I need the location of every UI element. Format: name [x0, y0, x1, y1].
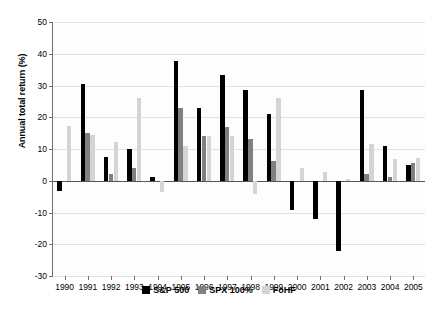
y-tick-mark	[49, 117, 53, 118]
legend-label: FoHF	[273, 285, 296, 295]
gridline	[53, 22, 425, 23]
bar	[267, 114, 271, 181]
gridline	[53, 276, 425, 277]
x-tick-mark	[134, 276, 135, 280]
bar	[178, 108, 182, 181]
legend-swatch-icon	[142, 286, 150, 294]
x-tick-mark	[204, 276, 205, 280]
bar	[225, 127, 229, 181]
bar	[271, 161, 275, 181]
legend-swatch-icon	[198, 286, 206, 294]
bar	[393, 159, 397, 181]
bar	[132, 168, 136, 181]
bar	[137, 98, 141, 181]
x-tick-mark	[344, 276, 345, 280]
bar	[300, 168, 304, 181]
bar	[230, 136, 234, 181]
legend-label: S&P 500	[153, 285, 189, 295]
y-tick-mark	[49, 149, 53, 150]
bar	[243, 90, 247, 181]
x-tick-mark	[251, 276, 252, 280]
bar	[336, 181, 340, 251]
bar	[369, 144, 373, 181]
bar	[207, 136, 211, 180]
bar	[346, 179, 350, 181]
bar	[109, 174, 113, 181]
y-tick-label: 40	[38, 49, 47, 59]
x-tick-mark	[88, 276, 89, 280]
y-tick-mark	[49, 213, 53, 214]
bar	[364, 174, 368, 181]
chart-legend: S&P 500SPX 100%FoHF	[0, 285, 438, 295]
bar	[202, 136, 206, 180]
bar	[313, 181, 317, 219]
y-tick-mark	[49, 244, 53, 245]
y-tick-mark	[49, 22, 53, 23]
x-tick-mark	[367, 276, 368, 280]
legend-label: SPX 100%	[209, 285, 253, 295]
gridline	[53, 86, 425, 87]
bar	[183, 146, 187, 181]
y-tick-label: -20	[35, 239, 47, 249]
x-tick-mark	[111, 276, 112, 280]
bar	[104, 157, 108, 181]
y-tick-label: -10	[35, 208, 47, 218]
y-tick-label: 50	[38, 17, 47, 27]
bar	[174, 61, 178, 180]
bar	[220, 75, 224, 181]
x-tick-mark	[65, 276, 66, 280]
x-tick-mark	[413, 276, 414, 280]
gridline	[53, 117, 425, 118]
x-tick-mark	[390, 276, 391, 280]
bar	[90, 135, 94, 180]
bar	[406, 165, 410, 181]
y-axis-title: Annual total return (%)	[17, 41, 27, 161]
bar	[85, 133, 89, 181]
axis-baseline	[49, 276, 53, 277]
bar	[114, 142, 118, 180]
y-tick-mark	[49, 54, 53, 55]
zero-line	[53, 181, 425, 182]
bar	[248, 139, 252, 180]
bar	[416, 158, 420, 181]
y-tick-mark	[49, 86, 53, 87]
bar	[383, 146, 387, 181]
bar	[67, 126, 71, 181]
bar	[150, 177, 154, 181]
y-tick-mark	[49, 181, 53, 182]
gridline	[53, 54, 425, 55]
bar	[276, 98, 280, 181]
y-tick-label: 10	[38, 144, 47, 154]
gridline	[53, 213, 425, 214]
gridline	[53, 244, 425, 245]
y-tick-label: 20	[38, 112, 47, 122]
bar	[57, 181, 61, 191]
legend-item[interactable]: S&P 500	[142, 285, 189, 295]
legend-item[interactable]: SPX 100%	[198, 285, 253, 295]
legend-swatch-icon	[262, 286, 270, 294]
bar	[253, 181, 257, 194]
x-tick-mark	[158, 276, 159, 280]
y-tick-label: 0	[42, 176, 47, 186]
bar-chart: Annual total return (%) 50403020100-10-2…	[0, 0, 438, 311]
y-tick-label: -30	[35, 271, 47, 281]
bar	[197, 108, 201, 181]
x-tick-mark	[227, 276, 228, 280]
x-tick-mark	[297, 276, 298, 280]
bar	[160, 181, 164, 192]
x-tick-mark	[181, 276, 182, 280]
bar	[411, 163, 415, 181]
bar	[290, 181, 294, 210]
bar	[388, 177, 392, 180]
bar	[81, 84, 85, 181]
x-tick-mark	[274, 276, 275, 280]
x-tick-mark	[320, 276, 321, 280]
legend-item[interactable]: FoHF	[262, 285, 296, 295]
bar	[127, 149, 131, 181]
y-tick-label: 30	[38, 81, 47, 91]
bar	[360, 90, 364, 181]
bar	[323, 172, 327, 181]
plot-area: 50403020100-10-20-30 1990199119921993199…	[52, 22, 425, 276]
